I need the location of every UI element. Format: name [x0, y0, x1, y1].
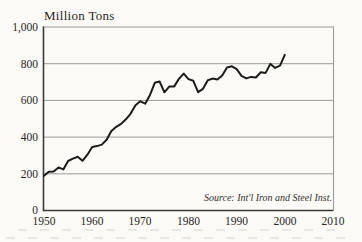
- x-axis-label-1950: 1950: [22, 214, 66, 228]
- x-axis-label-2000: 2000: [263, 214, 307, 228]
- y-axis-label-200: 200: [0, 167, 38, 181]
- y-axis-label-1000: 1,000: [0, 20, 38, 34]
- y-axis-label-800: 800: [0, 57, 38, 71]
- chart-title: Million Tons: [44, 8, 115, 24]
- y-axis-label-400: 400: [0, 130, 38, 144]
- y-axis-label-600: 600: [0, 93, 38, 107]
- x-axis-label-1980: 1980: [167, 214, 211, 228]
- x-axis-label-1990: 1990: [215, 214, 259, 228]
- steel-production-figure: Million Tons 1,000 800 600 400 200 0 195…: [0, 0, 362, 242]
- scan-artifact: [6, 237, 352, 239]
- scan-artifact: [18, 229, 342, 231]
- x-axis-label-2010: 2010: [311, 214, 355, 228]
- x-axis-label-1970: 1970: [118, 214, 162, 228]
- x-axis-label-1960: 1960: [70, 214, 114, 228]
- source-note: Source: Int'l Iron and Steel Inst.: [204, 192, 332, 203]
- steel-production-series: [44, 55, 285, 176]
- chart-canvas: [0, 0, 362, 242]
